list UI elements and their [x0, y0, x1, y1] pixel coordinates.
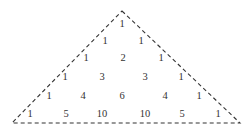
triangle-entry-r5-c2: 10 — [97, 109, 108, 120]
triangle-entry-r0-c0: 1 — [119, 19, 124, 30]
triangle-entry-r2-c0: 1 — [83, 53, 88, 64]
triangle-entry-r2-c1: 2 — [120, 53, 125, 64]
triangle-entry-r1-c1: 1 — [138, 36, 143, 47]
triangle-entry-r1-c0: 1 — [102, 36, 107, 47]
triangle-entry-r5-c3: 10 — [140, 109, 151, 120]
triangle-entry-r5-c5: 1 — [215, 109, 220, 120]
triangle-entry-r2-c2: 1 — [158, 53, 163, 64]
triangle-entry-r3-c0: 1 — [62, 72, 67, 83]
dashed-triangle-outline — [12, 11, 240, 123]
triangle-entry-r4-c2: 6 — [119, 91, 124, 102]
triangle-entry-r4-c3: 4 — [162, 91, 167, 102]
triangle-entry-r4-c1: 4 — [80, 91, 85, 102]
triangle-entry-r3-c2: 3 — [142, 72, 147, 83]
triangle-entry-r4-c0: 1 — [46, 91, 51, 102]
triangle-entry-r4-c4: 1 — [196, 91, 201, 102]
triangle-entry-r5-c1: 5 — [63, 109, 68, 120]
triangle-entry-r5-c0: 1 — [27, 109, 32, 120]
pascal-triangle-diagram — [0, 0, 250, 137]
triangle-entry-r3-c1: 3 — [99, 72, 104, 83]
triangle-entry-r5-c4: 5 — [179, 109, 184, 120]
triangle-entry-r3-c3: 1 — [178, 72, 183, 83]
